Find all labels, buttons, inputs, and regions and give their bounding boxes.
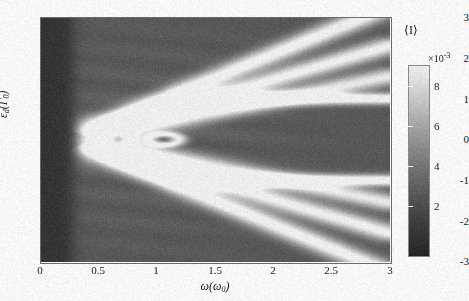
x-axis-label: ω(ω0) (0, 279, 430, 294)
y-axis-label-sub-d: d (2, 109, 11, 113)
colorbar-tick-mark (408, 206, 413, 207)
colorbar-tick-mark (408, 126, 413, 127)
colorbar-title: ⟨I⟩ (404, 23, 418, 38)
y-axis-label: εd(Γ0) (0, 90, 11, 118)
x-tick-label: 2 (253, 265, 293, 276)
colorbar-gradient (408, 65, 430, 257)
colorbar-tick-label: 2 (434, 201, 464, 212)
x-axis-label-close: ) (225, 279, 229, 293)
y-tick-label: 0 (435, 134, 469, 145)
y-axis-label-close: ) (0, 90, 10, 94)
x-tick-label: 1 (136, 265, 176, 276)
y-axis-label-sub-zero: 0 (2, 94, 11, 98)
colorbar-tick-mark (408, 166, 413, 167)
y-axis-label-open-gamma: (Γ (0, 98, 10, 109)
y-axis-label-epsilon: ε (0, 113, 10, 118)
x-tick-label: 0 (20, 265, 60, 276)
colorbar-tick-mark (408, 86, 413, 87)
x-tick-label: 3 (370, 265, 410, 276)
x-axis-label-omega: ω( (201, 279, 213, 293)
y-tick-label: 1 (435, 94, 469, 105)
x-tick-label: 0.5 (78, 265, 118, 276)
colorbar-tick-label: 6 (434, 121, 464, 132)
y-tick-label: 3 (435, 12, 469, 23)
heatmap-canvas (40, 17, 390, 262)
colorbar-multiplier-exponent: -3 (444, 51, 451, 60)
colorbar-tick-label: 8 (434, 81, 464, 92)
colorbar-multiplier: ×10-3 (428, 51, 450, 64)
colorbar-tick-label: 4 (434, 161, 464, 172)
heatmap-plot-area (40, 17, 390, 262)
x-tick-label: 1.5 (195, 265, 235, 276)
y-tick-label: -1 (435, 175, 469, 186)
figure-heatmap-average-current: 3 2 1 0 -1 -2 -3 εd(Γ0) 0 0.5 1 1.5 2 2.… (0, 0, 469, 301)
x-tick-label: 2.5 (311, 265, 351, 276)
y-tick-label: -3 (435, 256, 469, 267)
colorbar-multiplier-base: ×10 (428, 53, 444, 64)
y-tick-label: -2 (435, 216, 469, 227)
